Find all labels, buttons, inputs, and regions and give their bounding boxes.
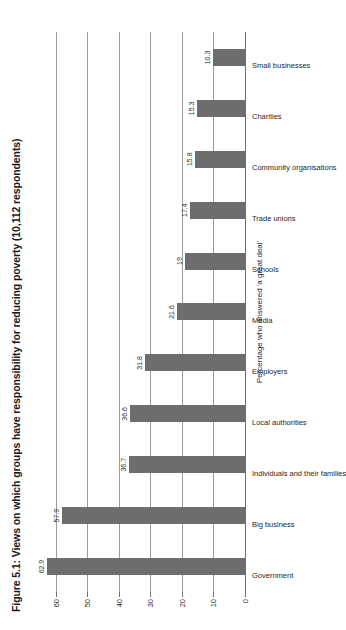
y-axis-tick-label: 30 — [146, 599, 155, 607]
bar — [177, 304, 245, 321]
bar-value-label: 17.4 — [181, 203, 188, 217]
bar — [190, 202, 245, 219]
y-axis-tick-mark — [182, 592, 183, 597]
y-axis-tick-label: 50 — [83, 599, 92, 607]
y-axis-tick-label: 10 — [209, 599, 218, 607]
y-axis-tick-mark — [150, 592, 151, 597]
x-axis-category-label: Individuals and their families — [252, 468, 346, 477]
bar-group: 36.6Local authorities — [40, 405, 245, 422]
y-axis-tick-mark — [56, 592, 57, 597]
bar — [197, 100, 245, 117]
bar-value-label: 36.7 — [120, 458, 127, 472]
y-axis-title: Percentage who answered 'a great deal' — [255, 32, 264, 592]
y-axis-tick-mark — [119, 592, 120, 597]
y-axis-tick-label: 0 — [241, 599, 250, 603]
bar-group: 57.9Big business — [40, 507, 245, 524]
bar-value-label: 19 — [176, 257, 183, 265]
bar — [213, 49, 245, 66]
plot-area: 010203040506062.9Government57.9Big busin… — [40, 32, 245, 592]
bar — [145, 354, 245, 371]
x-axis-category-label: Community organisations — [252, 163, 337, 172]
bar-group: 15.3Charities — [40, 100, 245, 117]
bar-group: 10.3Small businesses — [40, 49, 245, 66]
bar-value-label: 21.6 — [168, 305, 175, 319]
bar-group: 17.4Trade unions — [40, 202, 245, 219]
bar-value-label: 10.3 — [204, 51, 211, 65]
bar — [129, 456, 245, 473]
bar-group: 36.7Individuals and their families — [40, 456, 245, 473]
bar — [62, 507, 245, 524]
bar — [195, 151, 245, 168]
bar-value-label: 62.9 — [38, 560, 45, 574]
bar-value-label: 36.6 — [121, 407, 128, 421]
bar-group: 62.9Government — [40, 558, 245, 575]
bar-value-label: 57.9 — [53, 509, 60, 523]
y-axis-tick-label: 40 — [114, 599, 123, 607]
bar-group: 19Schools — [40, 253, 245, 270]
bar-group: 21.6Media — [40, 304, 245, 321]
bar-group: 31.8Employers — [40, 354, 245, 371]
bar-value-label: 31.8 — [136, 356, 143, 370]
bar — [47, 558, 245, 575]
bar — [185, 253, 245, 270]
y-axis-tick-mark — [87, 592, 88, 597]
y-axis-tick-mark — [213, 592, 214, 597]
y-axis-tick-label: 60 — [51, 599, 60, 607]
bar-value-label: 15.3 — [188, 102, 195, 116]
page-title: Figure 5.1: Views on which groups have r… — [10, 139, 22, 612]
axis-baseline — [245, 32, 246, 592]
y-axis-tick-mark — [245, 592, 246, 597]
y-axis-tick-label: 20 — [177, 599, 186, 607]
bar-group: 15.8Community organisations — [40, 151, 245, 168]
bar-value-label: 15.8 — [186, 152, 193, 166]
bar — [130, 405, 245, 422]
